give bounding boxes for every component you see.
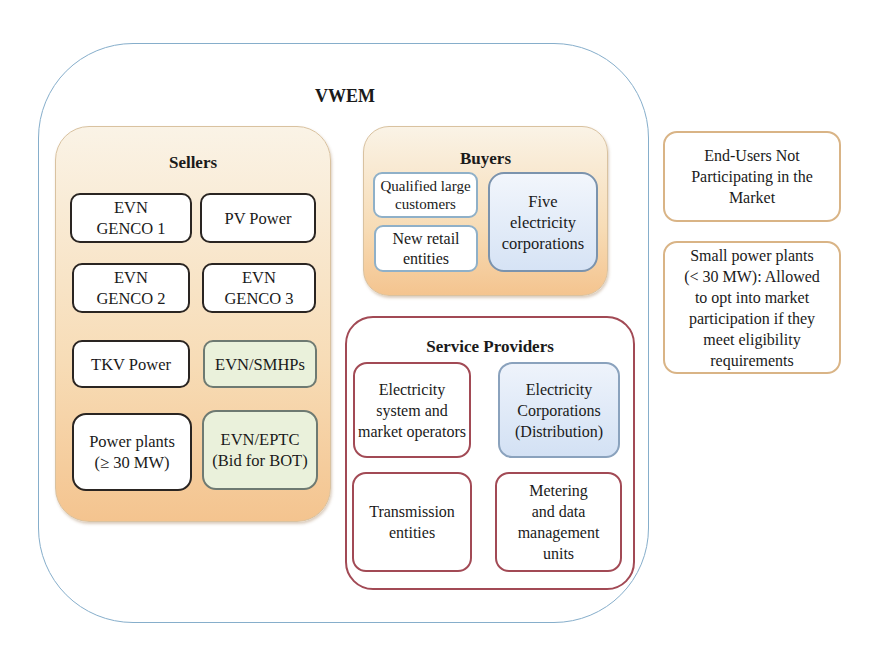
sp-label: Electricity system and market operators <box>358 379 466 442</box>
end-users-not-participating: End-Users Not Participating in the Marke… <box>663 131 841 222</box>
seller-label: PV Power <box>224 208 291 229</box>
sellers-title: Sellers <box>55 150 331 176</box>
outside-label: Small power plants (< 30 MW): Allowed to… <box>684 245 820 371</box>
buyer-label: Five electricity corporations <box>502 191 584 254</box>
seller-label: EVN/SMHPs <box>215 354 305 375</box>
vwem-title: VWEM <box>290 84 400 108</box>
sp-transmission-entities: Transmission entities <box>352 472 472 572</box>
seller-label: EVN GENCO 2 <box>96 267 165 309</box>
seller-evn-eptc: EVN/EPTC (Bid for BOT) <box>202 410 318 490</box>
buyer-label: New retail entities <box>392 229 459 269</box>
sp-label: Transmission entities <box>369 501 455 543</box>
seller-evn-genco-2: EVN GENCO 2 <box>72 263 190 313</box>
small-power-plants: Small power plants (< 30 MW): Allowed to… <box>663 241 841 374</box>
seller-evn-smhps: EVN/SMHPs <box>203 340 317 388</box>
outside-label: End-Users Not Participating in the Marke… <box>691 145 813 208</box>
sp-electricity-corporations-distribution: Electricity Corporations (Distribution) <box>498 362 620 458</box>
seller-power-plants: Power plants (≥ 30 MW) <box>72 413 192 491</box>
sp-label: Metering and data management units <box>518 480 600 564</box>
buyer-label: Qualified large customers <box>380 177 470 213</box>
service-providers-title: Service Providers <box>345 335 635 359</box>
sp-system-market-operators: Electricity system and market operators <box>353 362 471 458</box>
seller-tkv-power: TKV Power <box>72 340 190 388</box>
buyer-five-electricity-corporations: Five electricity corporations <box>488 172 598 272</box>
seller-label: EVN/EPTC (Bid for BOT) <box>212 429 307 471</box>
buyer-qualified-large-customers: Qualified large customers <box>373 172 478 218</box>
seller-pv-power: PV Power <box>200 193 316 243</box>
seller-evn-genco-1: EVN GENCO 1 <box>70 193 192 243</box>
seller-label: EVN GENCO 3 <box>224 267 293 309</box>
sp-label: Electricity Corporations (Distribution) <box>515 379 603 442</box>
seller-label: Power plants (≥ 30 MW) <box>89 431 175 473</box>
seller-evn-genco-3: EVN GENCO 3 <box>202 263 316 313</box>
sp-metering-data-management: Metering and data management units <box>495 472 622 572</box>
seller-label: EVN GENCO 1 <box>96 197 165 239</box>
buyer-new-retail-entities: New retail entities <box>374 225 478 272</box>
seller-label: TKV Power <box>91 354 171 375</box>
buyers-title: Buyers <box>363 147 608 171</box>
